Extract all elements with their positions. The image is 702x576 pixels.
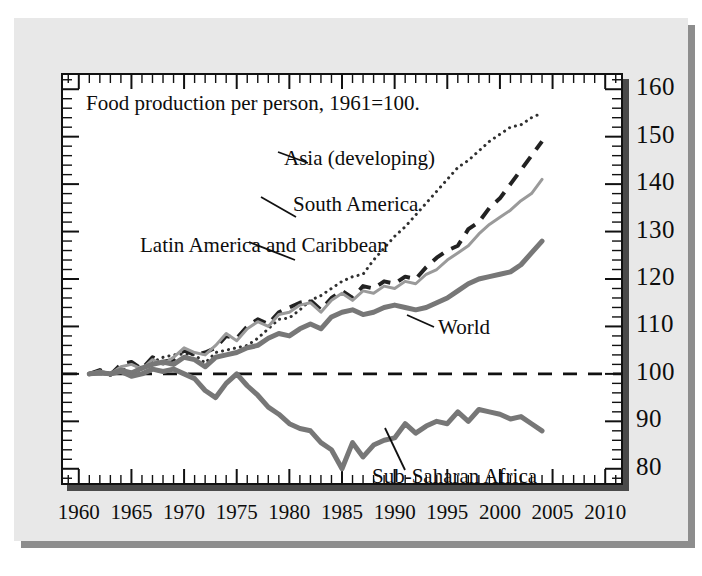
x-tick-label: 1995 — [426, 500, 468, 525]
x-tick-label: 1970 — [163, 500, 205, 525]
x-tick-label: 2010 — [584, 500, 626, 525]
series-line-sub-saharan-africa — [89, 369, 542, 469]
chart-svg — [63, 75, 621, 483]
y-tick-label: 120 — [636, 264, 675, 289]
x-tick-label: 1965 — [110, 500, 152, 525]
chart-title: Food production per person, 1961=100. — [86, 91, 420, 116]
x-tick-label: 1985 — [321, 500, 363, 525]
x-axis-labels: 1960196519701975198019851990199520002005… — [61, 500, 627, 534]
leader-line-1 — [261, 197, 296, 217]
y-tick-label: 110 — [636, 311, 674, 336]
y-tick-label: 90 — [636, 406, 662, 431]
plot-area — [61, 73, 623, 485]
y-tick-label: 150 — [636, 122, 675, 147]
series-label-sub-saharan-africa: Sub-Saharan Africa — [372, 464, 537, 489]
y-tick-label: 130 — [636, 217, 675, 242]
x-tick-label: 1975 — [216, 500, 258, 525]
x-tick-label: 1980 — [268, 500, 310, 525]
leader-line-3 — [407, 315, 434, 327]
x-tick-label: 1960 — [58, 500, 100, 525]
y-tick-label: 100 — [636, 359, 675, 384]
series-label-south-america: South America — [293, 192, 418, 217]
x-tick-label: 2005 — [532, 500, 574, 525]
axis-ticks — [63, 75, 621, 483]
y-tick-label: 80 — [636, 454, 662, 479]
figure-card: Food production per person, 1961=100. As… — [14, 18, 688, 541]
series-label-asia: Asia (developing) — [284, 146, 435, 171]
y-tick-label: 160 — [636, 74, 675, 99]
x-tick-label: 1990 — [374, 500, 416, 525]
series-label-latin-america: Latin America and Caribbean — [140, 233, 388, 258]
x-tick-label: 2000 — [479, 500, 521, 525]
y-tick-label: 140 — [636, 169, 675, 194]
series-label-world: World — [438, 315, 490, 340]
